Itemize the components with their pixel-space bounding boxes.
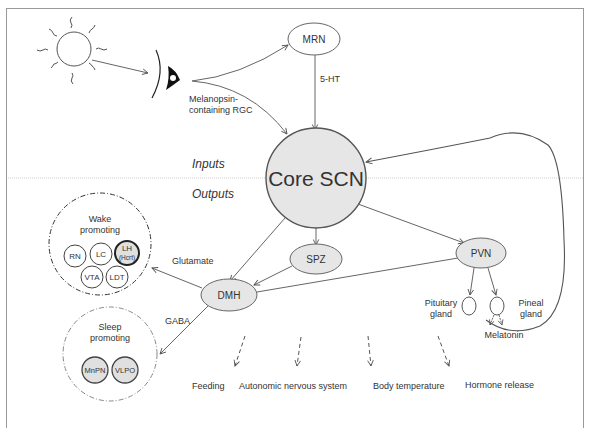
wake-node-lc: LC — [90, 243, 112, 265]
svg-text:MRN: MRN — [303, 34, 326, 45]
dmh-to-wake-arrow — [152, 268, 202, 288]
scn-to-pvn-arrow — [358, 204, 464, 243]
spz-to-dmh-arrow — [254, 266, 292, 285]
mrn-node: MRN — [288, 23, 340, 55]
wake-node-vta: VTA — [81, 266, 103, 288]
pituitary-gland-node: Pituitary gland — [425, 297, 476, 319]
svg-text:DMH: DMH — [218, 290, 241, 301]
pvn-to-pineal-arrow — [488, 268, 496, 295]
pvn-node: PVN — [456, 238, 506, 268]
melatonin-arrow-2 — [499, 315, 502, 325]
body-temperature-arrow — [368, 336, 371, 366]
rgc-label-line1: Melanopsin- — [189, 94, 238, 104]
pineal-gland-node: Pineal gland — [490, 297, 544, 319]
svg-text:LH: LH — [122, 244, 132, 253]
pvn-to-pituitary-arrow — [470, 268, 474, 295]
dmh-node: DMH — [201, 279, 257, 311]
svg-text:VLPO: VLPO — [115, 366, 135, 375]
5ht-label: 5-HT — [320, 74, 341, 84]
sleep-promoting-group: Sleep promoting MnPN VLPO — [63, 307, 157, 401]
spz-node: SPZ — [290, 244, 342, 274]
svg-text:LDT: LDT — [109, 273, 124, 282]
output-hormone-release: Hormone release — [465, 380, 534, 390]
svg-text:promoting: promoting — [80, 225, 120, 235]
svg-text:SPZ: SPZ — [306, 254, 325, 265]
wake-promoting-group: Wake promoting RN LC LH (Hcrt) VTA LDT — [49, 193, 151, 295]
sleep-node-vlpo: VLPO — [112, 357, 138, 383]
svg-text:promoting: promoting — [90, 333, 130, 343]
svg-text:VTA: VTA — [85, 273, 101, 282]
outputs-label: Outputs — [192, 187, 234, 201]
svg-text:Wake: Wake — [89, 214, 112, 224]
dmh-to-pvn-arrow — [257, 257, 464, 292]
eye-icon — [152, 50, 180, 98]
wake-node-lh-hcrt: LH (Hcrt) — [115, 241, 139, 265]
svg-text:MnPN: MnPN — [85, 366, 106, 375]
gaba-label: GABA — [165, 316, 190, 326]
svg-text:Pineal: Pineal — [518, 298, 543, 308]
glutamate-label: Glutamate — [172, 256, 214, 266]
scn-to-dmh-arrow — [230, 218, 285, 281]
rgc-label-line2: containing RGC — [189, 105, 253, 115]
output-feeding: Feeding — [192, 381, 225, 391]
svg-text:RN: RN — [69, 252, 81, 261]
svg-text:gland: gland — [430, 309, 452, 319]
svg-text:Core SCN: Core SCN — [268, 167, 364, 190]
svg-text:Pituitary: Pituitary — [425, 298, 458, 308]
hormone-release-arrow — [438, 336, 449, 366]
feeding-arrow — [235, 336, 245, 366]
output-body-temperature: Body temperature — [373, 381, 445, 391]
svg-text:Sleep: Sleep — [98, 322, 121, 332]
output-autonomic-nervous-system: Autonomic nervous system — [239, 381, 347, 391]
svg-text:(Hcrt): (Hcrt) — [119, 254, 135, 262]
svg-text:PVN: PVN — [471, 248, 492, 259]
autonomic-arrow — [297, 337, 301, 366]
wake-node-rn: RN — [64, 245, 86, 267]
inputs-label: Inputs — [192, 157, 225, 171]
core-scn-node: Core SCN — [266, 128, 366, 228]
melatonin-label: Melatonin — [484, 330, 523, 340]
wake-node-ldt: LDT — [106, 266, 128, 288]
light-to-eye-arrow — [92, 60, 148, 73]
sun-icon — [37, 17, 107, 84]
rgc-to-mrn-arrow — [192, 45, 288, 81]
dmh-to-sleep-arrow — [160, 306, 208, 354]
svg-text:LC: LC — [96, 250, 106, 259]
sleep-node-mnpn: MnPN — [82, 357, 108, 383]
svg-text:gland: gland — [520, 309, 542, 319]
